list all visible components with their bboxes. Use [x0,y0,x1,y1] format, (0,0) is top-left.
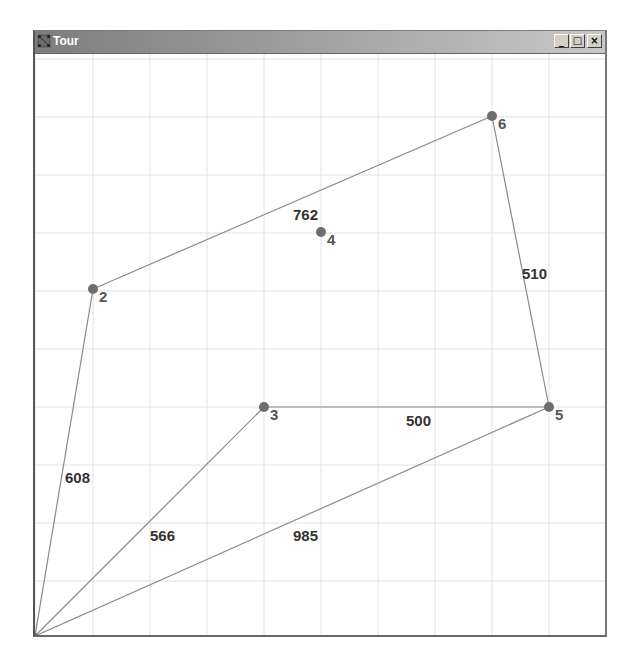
edge-weight-label: 510 [522,265,547,282]
node-label: 4 [327,231,336,248]
node-3[interactable] [259,402,269,412]
edge-weight-label: 985 [293,527,318,544]
node-label: 5 [555,406,563,423]
edge-2-6[interactable] [93,116,492,289]
node-4[interactable] [316,227,326,237]
edge-weight-label: 608 [65,469,90,486]
tour-graph[interactable]: 60876251050056698523456 [35,54,605,635]
node-2[interactable] [88,284,98,294]
minimize-button[interactable]: _ [554,34,569,48]
node-label: 3 [270,406,278,423]
graph-canvas[interactable]: 60876251050056698523456 [35,54,605,635]
close-button[interactable]: × [587,34,602,48]
maximize-button[interactable]: □ [570,34,585,48]
edge-1-2[interactable] [35,289,93,635]
edge-6-5[interactable] [492,116,549,407]
node-5[interactable] [544,402,554,412]
title-bar[interactable]: Tour _ □ × [35,31,605,54]
node-label: 6 [498,115,506,132]
edge-1-5[interactable] [35,407,549,635]
edge-weight-label: 762 [293,206,318,223]
close-icon: × [590,35,598,46]
maximize-icon: □ [573,35,582,46]
minimize-icon: _ [559,35,564,46]
window-title: Tour [53,34,79,48]
graph-app-icon [37,34,51,48]
node-6[interactable] [487,111,497,121]
node-label: 2 [99,288,107,305]
edge-weight-label: 566 [150,527,175,544]
tour-window: Tour _ □ × 60876251050056698523456 [33,30,607,637]
edge-weight-label: 500 [406,412,431,429]
